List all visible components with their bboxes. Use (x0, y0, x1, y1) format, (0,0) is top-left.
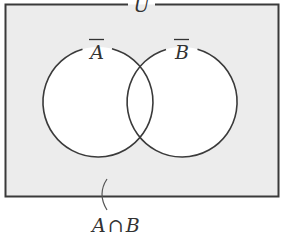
set-a-label: A (88, 40, 104, 64)
shaded-label-op: ∩ (108, 214, 124, 236)
venn-diagram: U A B A∩B (0, 0, 287, 238)
set-a-label-text: A (88, 41, 104, 63)
set-b-label: B (174, 40, 189, 64)
shaded-region-label: A∩B (90, 214, 140, 236)
universe-label: U (133, 0, 150, 16)
shaded-label-right: B (125, 214, 140, 236)
shaded-label-left: A (90, 214, 106, 236)
set-b-label-text: B (174, 41, 189, 63)
